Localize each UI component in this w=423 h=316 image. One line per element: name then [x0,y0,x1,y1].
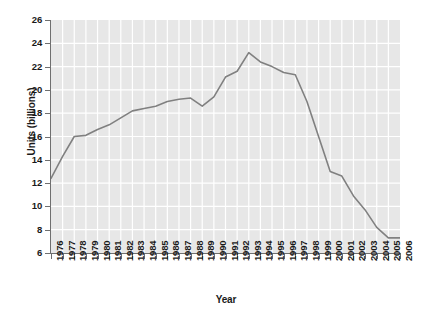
y-tick-label: 8 [14,225,42,235]
x-tick-label: 1990 [218,241,228,261]
x-tick-label: 1984 [148,241,158,261]
y-tick-label: 14 [14,155,42,165]
y-tick-mark [45,253,50,254]
y-tick-label: 6 [14,248,42,258]
x-tick-label: 1981 [113,241,123,261]
y-tick-label: 26 [14,15,42,25]
y-tick-mark [45,43,50,44]
x-tick-label: 2001 [346,241,356,261]
x-tick-label: 1976 [55,241,65,261]
x-tick-label: 2004 [381,241,391,261]
y-tick-mark [45,160,50,161]
y-tick-label: 18 [14,108,42,118]
x-tick-label: 1997 [299,241,309,261]
x-tick-label: 1977 [67,241,77,261]
x-tick-label: 1988 [195,241,205,261]
x-tick-label: 2000 [334,241,344,261]
y-tick-label: 24 [14,38,42,48]
x-axis-title: Year [51,294,401,305]
line-chart: Units (billions) 68101214161820222426 19… [0,0,423,316]
x-tick-label: 1987 [183,241,193,261]
y-tick-label: 10 [14,201,42,211]
y-tick-mark [45,137,50,138]
y-tick-mark [45,230,50,231]
x-tick-label: 1992 [241,241,251,261]
x-tick-label: 2005 [392,241,402,261]
y-axis-title: Units (billions) [26,52,37,192]
x-tick-label: 1991 [230,241,240,261]
x-tick-label: 1993 [253,241,263,261]
x-tick-label: 1996 [288,241,298,261]
y-tick-label: 22 [14,62,42,72]
x-tick-label: 1999 [323,241,333,261]
x-tick-label: 1998 [311,241,321,261]
x-tick-label: 1983 [136,241,146,261]
plot-area [51,20,400,253]
x-tick-label: 1995 [276,241,286,261]
x-tick-label: 1982 [125,241,135,261]
y-tick-mark [45,113,50,114]
y-tick-label: 12 [14,178,42,188]
x-tick-label: 1989 [206,241,216,261]
y-tick-mark [45,183,50,184]
y-tick-mark [45,90,50,91]
y-tick-mark [45,206,50,207]
y-tick-label: 16 [14,132,42,142]
x-tick-label: 1979 [90,241,100,261]
y-tick-label: 20 [14,85,42,95]
x-tick-label: 2006 [404,241,414,261]
y-tick-mark [45,20,50,21]
y-tick-mark [45,67,50,68]
x-tick-label: 2003 [369,241,379,261]
x-tick-label: 1986 [171,241,181,261]
x-tick-mark [51,254,52,259]
x-tick-label: 1980 [102,241,112,261]
x-tick-label: 1985 [160,241,170,261]
x-tick-label: 2002 [357,241,367,261]
x-tick-label: 1978 [78,241,88,261]
x-tick-label: 1994 [264,241,274,261]
y-axis-line [50,20,51,254]
data-series-line [51,20,400,253]
